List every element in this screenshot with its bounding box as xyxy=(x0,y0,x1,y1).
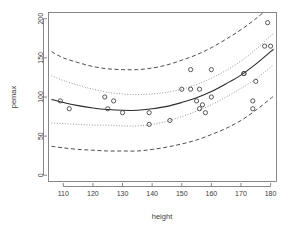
data-point xyxy=(203,111,207,115)
y-axis-title: pemax xyxy=(9,85,18,108)
x-axis-title: height xyxy=(152,212,173,221)
data-point xyxy=(120,111,124,115)
x-tick-label-6: 170 xyxy=(235,190,247,197)
data-point xyxy=(200,103,204,107)
y-tick-label-4: 200 xyxy=(37,13,44,25)
y-tick-label-2: 100 xyxy=(37,91,44,103)
data-point xyxy=(189,87,193,91)
data-points xyxy=(58,21,272,127)
plot-frame xyxy=(49,13,277,182)
fit-curve-path xyxy=(51,49,273,110)
interval-bands xyxy=(51,4,273,151)
data-point xyxy=(209,68,213,72)
x-tick-label-3: 140 xyxy=(146,190,158,197)
data-point xyxy=(194,99,198,103)
scatter-plot-figure: 050100150200 110120130140150160170180 he… xyxy=(0,0,298,233)
data-point xyxy=(251,107,255,111)
data-point xyxy=(268,44,272,48)
prediction-band-upper xyxy=(51,4,273,70)
data-point xyxy=(254,79,258,83)
data-point xyxy=(103,95,107,99)
x-tick-label-2: 130 xyxy=(117,190,129,197)
data-point xyxy=(266,21,270,25)
data-point xyxy=(67,107,71,111)
y-tick-label-1: 50 xyxy=(37,132,44,140)
regression-fit-line xyxy=(51,49,273,110)
data-point xyxy=(106,107,110,111)
chart-canvas: 050100150200 110120130140150160170180 he… xyxy=(0,0,298,233)
data-point xyxy=(251,99,255,103)
x-tick-label-7: 180 xyxy=(265,190,277,197)
y-axis: 050100150200 xyxy=(37,13,47,177)
data-point xyxy=(147,111,151,115)
data-point xyxy=(112,99,116,103)
confidence-band-lower xyxy=(51,65,273,126)
x-tick-label-0: 110 xyxy=(58,190,69,197)
data-point xyxy=(209,95,213,99)
data-point xyxy=(197,87,201,91)
x-tick-label-5: 160 xyxy=(206,190,218,197)
y-tick-label-3: 150 xyxy=(37,52,44,64)
data-point xyxy=(263,44,267,48)
data-point xyxy=(189,68,193,72)
x-tick-label-1: 120 xyxy=(87,190,99,197)
y-tick-label-0: 0 xyxy=(37,173,44,177)
data-point xyxy=(197,107,201,111)
prediction-band-lower xyxy=(51,96,273,151)
x-tick-label-4: 150 xyxy=(176,190,188,197)
x-axis: 110120130140150160170180 xyxy=(58,183,277,197)
